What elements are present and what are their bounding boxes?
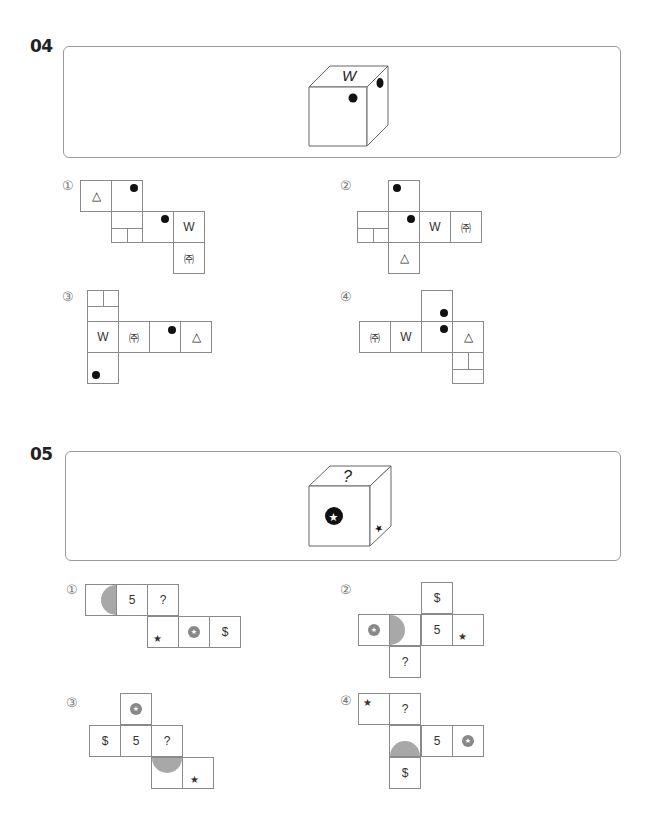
q04-option-4-label[interactable]: ④ [340, 289, 352, 304]
question-mark: ? [160, 593, 167, 607]
net-face [111, 180, 143, 212]
net-face: ★ [452, 725, 484, 757]
net-face: 5 [116, 584, 148, 616]
net-face-split [87, 290, 119, 322]
five-number: 5 [434, 734, 441, 748]
net-face [151, 757, 183, 789]
net-face [87, 352, 119, 384]
net-face [388, 211, 420, 243]
net-face: W [87, 321, 119, 353]
dot-icon [130, 184, 138, 192]
net-face: ? [389, 646, 421, 678]
dollar-sign: $ [402, 766, 409, 780]
net-face: ㈜ [118, 321, 150, 353]
svg-text:W: W [342, 67, 358, 84]
net-face: 5 [421, 725, 453, 757]
q05-option-4-label[interactable]: ④ [340, 693, 352, 708]
star-icon: ★ [190, 774, 199, 785]
dot-icon [440, 309, 448, 317]
net-face: W [419, 211, 451, 243]
net-face: ? [151, 725, 183, 757]
five-number: 5 [129, 593, 136, 607]
net-face: $ [421, 582, 453, 614]
dollar-sign: $ [434, 591, 441, 605]
question-mark: ? [164, 734, 171, 748]
net-face: ㈜ [450, 211, 482, 243]
net-face: 5 [120, 725, 152, 757]
dot-icon [407, 215, 415, 223]
star-circle-icon: ★ [188, 626, 200, 638]
ju-symbol: ㈜ [461, 220, 471, 235]
net-face: W [173, 211, 205, 243]
cube-05-icon: ? ★ ★ [306, 464, 396, 548]
net-face: $ [209, 616, 241, 648]
triangle-icon: △ [400, 251, 409, 265]
star-circle-icon: ★ [462, 735, 474, 747]
net-face: $ [89, 725, 121, 757]
net-face-split [452, 352, 484, 384]
net-face: ? [389, 693, 421, 725]
net-face: ★ [178, 616, 210, 648]
w-letter: W [429, 220, 440, 234]
triangle-icon: △ [192, 330, 201, 344]
q04-option-2-label[interactable]: ② [340, 178, 352, 193]
q04-option-1-label[interactable]: ① [62, 178, 74, 193]
w-letter: W [183, 220, 194, 234]
star-circle-icon: ★ [130, 703, 142, 715]
svg-text:?: ? [343, 468, 352, 485]
five-number: 5 [434, 623, 441, 637]
star-icon: ★ [153, 633, 162, 644]
question-mark: ? [402, 702, 409, 716]
net-face [142, 211, 174, 243]
star-icon: ★ [458, 631, 467, 642]
question-05-cube-box: ? ★ ★ [65, 451, 621, 561]
half-circle-icon [152, 757, 182, 773]
net-face: △ [388, 242, 420, 274]
svg-text:★: ★ [329, 511, 339, 524]
net-face: ★ [147, 616, 179, 648]
net-face: 5 [421, 614, 453, 646]
net-face-split [111, 211, 143, 243]
net-face [389, 725, 421, 757]
net-face: ㈜ [359, 321, 391, 353]
net-face: ★ [452, 614, 484, 646]
q04-option-3-label[interactable]: ③ [62, 289, 74, 304]
ju-symbol: ㈜ [184, 251, 194, 266]
dot-icon [168, 326, 176, 334]
ju-symbol: ㈜ [370, 330, 380, 345]
question-number-05: 05 [30, 444, 53, 464]
net-face: △ [80, 180, 112, 212]
q05-option-3-label[interactable]: ③ [66, 695, 78, 710]
q05-option-2-label[interactable]: ② [340, 582, 352, 597]
net-face [421, 321, 453, 353]
question-mark: ? [402, 655, 409, 669]
net-face: ? [147, 584, 179, 616]
dot-icon [393, 184, 401, 192]
triangle-icon: △ [92, 189, 101, 203]
dot-icon [440, 325, 448, 333]
net-face [85, 584, 117, 616]
net-face: $ [389, 757, 421, 789]
dot-icon [92, 371, 100, 379]
net-face: ★ [358, 614, 390, 646]
half-circle-icon [389, 615, 405, 645]
net-face [388, 180, 420, 212]
ju-symbol: ㈜ [129, 330, 139, 345]
w-letter: W [400, 330, 411, 344]
question-04-cube-box: W [63, 46, 621, 158]
net-face: ㈜ [173, 242, 205, 274]
net-face: W [390, 321, 422, 353]
net-face-split [357, 211, 389, 243]
w-letter: W [97, 330, 108, 344]
dot-icon [161, 215, 169, 223]
q05-option-1-label[interactable]: ① [66, 582, 78, 597]
dollar-sign: $ [222, 625, 229, 639]
star-icon: ★ [363, 697, 372, 708]
net-face: ★ [358, 693, 390, 725]
half-circle-icon [390, 741, 420, 757]
question-number-04: 04 [30, 36, 53, 56]
net-face: ★ [182, 757, 214, 789]
net-face: ★ [120, 693, 152, 725]
triangle-icon: △ [464, 330, 473, 344]
star-circle-icon: ★ [368, 624, 380, 636]
